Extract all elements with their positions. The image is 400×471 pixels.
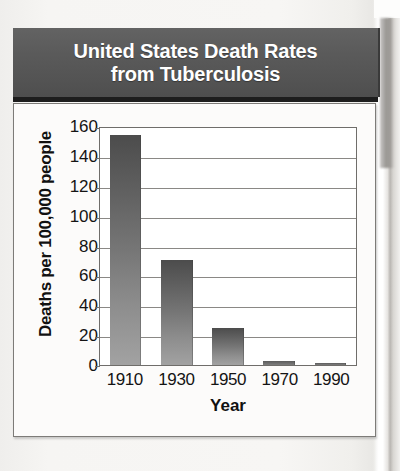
bar-cell — [100, 128, 151, 365]
page-gutter-shade — [380, 18, 394, 168]
x-axis-tick-1910: 1910 — [99, 370, 151, 394]
bar-1930 — [161, 260, 193, 365]
plot-area — [99, 127, 357, 366]
y-axis-tick-80: 80 — [79, 237, 98, 257]
x-axis-tick-labels: 19101930195019701990 — [99, 370, 357, 394]
y-axis-tick-160: 160 — [70, 117, 98, 137]
bar-1970 — [263, 361, 295, 365]
scanned-page-background: United States Death Rates from Tuberculo… — [0, 0, 400, 471]
page-edge-highlight — [374, 0, 400, 18]
y-axis-tick-labels: 020406080100120140160 — [56, 119, 98, 365]
bar-cell — [305, 128, 356, 365]
bar-series — [100, 128, 356, 365]
x-axis-tick-1950: 1950 — [202, 370, 254, 394]
chart-title-line-1: United States Death Rates — [74, 40, 318, 62]
x-axis-tick-1970: 1970 — [254, 370, 306, 394]
bar-chart: Deaths per 100,000 people 02040608010012… — [14, 104, 377, 438]
bar-1950 — [212, 328, 244, 365]
y-axis-tick-120: 120 — [70, 177, 98, 197]
chart-title-banner: United States Death Rates from Tuberculo… — [13, 28, 378, 97]
y-axis-tick-100: 100 — [70, 207, 98, 227]
chart-title-line-2: from Tuberculosis — [111, 63, 281, 85]
x-axis-label: Year — [99, 396, 357, 416]
chart-card: Deaths per 100,000 people 02040608010012… — [13, 103, 376, 437]
bar-cell — [151, 128, 202, 365]
y-axis-tick-40: 40 — [79, 296, 98, 316]
y-axis-tick-140: 140 — [70, 147, 98, 167]
bar-cell — [254, 128, 305, 365]
x-axis-tick-1990: 1990 — [305, 370, 357, 394]
bar-1990 — [315, 363, 347, 365]
y-axis-label: Deaths per 100,000 people — [36, 109, 58, 359]
chart-title-text: United States Death Rates from Tuberculo… — [64, 40, 328, 86]
bar-1910 — [110, 135, 142, 365]
bar-cell — [202, 128, 253, 365]
y-axis-tick-mark — [95, 366, 100, 367]
x-axis-tick-1930: 1930 — [151, 370, 203, 394]
y-axis-tick-60: 60 — [79, 266, 98, 286]
y-axis-tick-20: 20 — [79, 326, 98, 346]
